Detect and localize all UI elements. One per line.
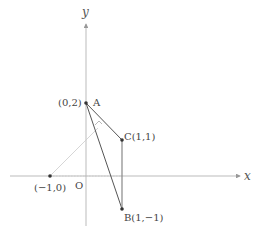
y-axis-label: y <box>81 5 89 19</box>
point-A-label: A <box>92 97 101 108</box>
point-B <box>120 207 124 211</box>
x-axis-label: x <box>244 169 251 183</box>
coordinate-diagram: y x O (0,2) A C(1,1) B(1,−1) (−1,0) <box>0 0 260 236</box>
origin-label: O <box>75 180 83 191</box>
right-angle-mark <box>95 121 102 125</box>
point-A-coord-label: (0,2) <box>58 97 82 108</box>
point-neg1-0 <box>48 174 52 178</box>
point-neg1-0-label: (−1,0) <box>34 182 66 193</box>
segment-AB <box>86 103 122 209</box>
point-C-label: C(1,1) <box>124 131 155 142</box>
point-B-label: B(1,−1) <box>124 212 164 223</box>
point-A <box>84 101 88 105</box>
perpendicular-line <box>50 128 98 176</box>
